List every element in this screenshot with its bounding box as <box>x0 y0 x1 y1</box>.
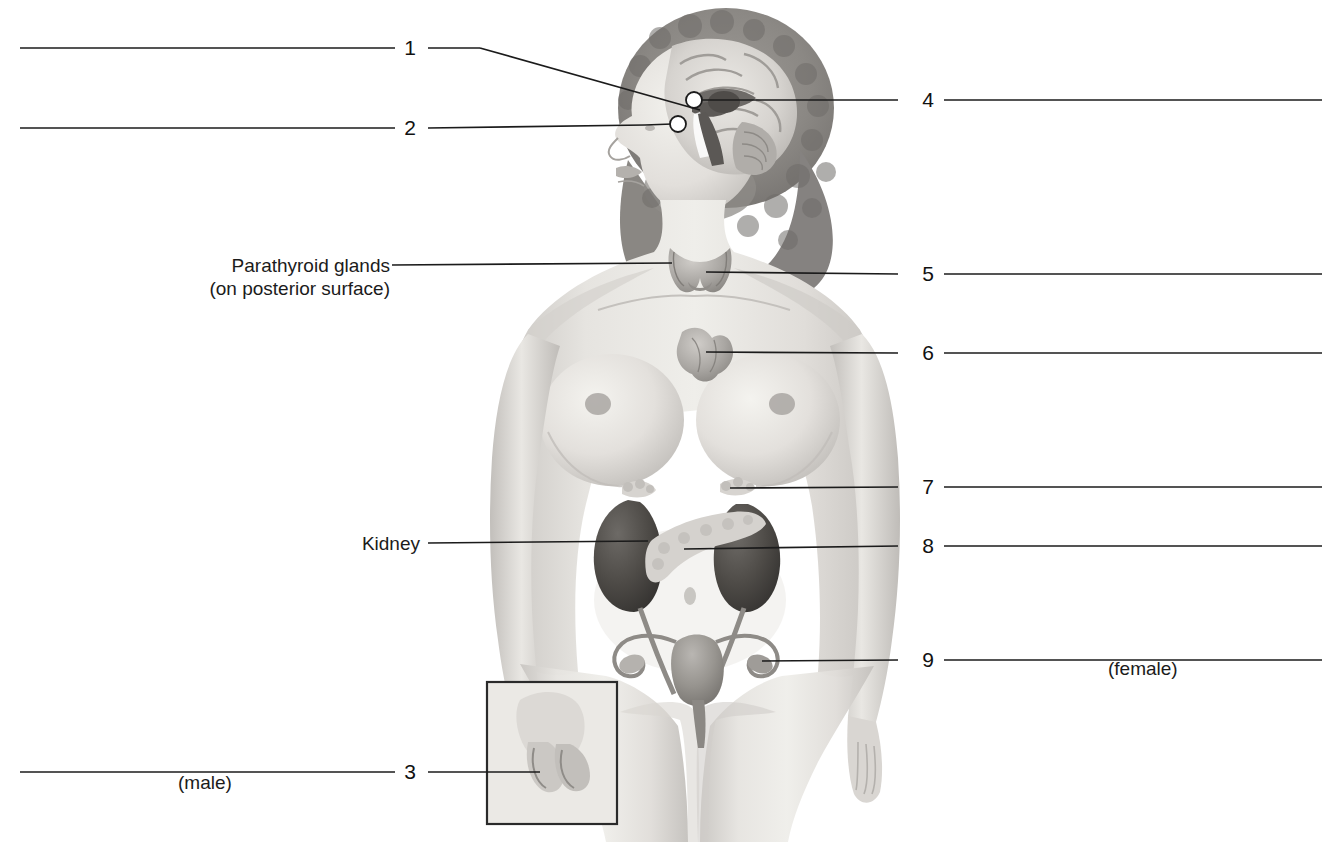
leader-6 <box>706 352 898 353</box>
annotation-male: (male) <box>178 772 232 794</box>
label-kidney: Kidney <box>240 532 420 555</box>
annotation-female: (female) <box>1108 658 1178 680</box>
leader-9 <box>762 660 898 661</box>
label-number-4[interactable]: 4 <box>916 88 940 112</box>
label-number-3[interactable]: 3 <box>398 760 422 784</box>
label-number-2[interactable]: 2 <box>398 116 422 140</box>
label-number-7[interactable]: 7 <box>916 475 940 499</box>
pineal-marker <box>686 92 702 108</box>
tick-line-2 <box>428 125 645 128</box>
label-number-6[interactable]: 6 <box>916 341 940 365</box>
label-parathyroid-line1: Parathyroid glands <box>150 254 390 277</box>
label-number-9[interactable]: 9 <box>916 648 940 672</box>
label-parathyroid-line2: (on posterior surface) <box>150 277 390 300</box>
testes-inset <box>487 682 617 824</box>
pituitary-marker <box>670 116 686 132</box>
label-number-1[interactable]: 1 <box>398 36 422 60</box>
label-number-8[interactable]: 8 <box>916 534 940 558</box>
leader-7 <box>730 487 898 488</box>
leader-2 <box>645 124 672 125</box>
figure-page: 1 2 3 4 5 6 7 8 9 Parathyroid glands (on… <box>0 0 1339 842</box>
label-number-5[interactable]: 5 <box>916 262 940 286</box>
anatomy-figure <box>0 0 1339 842</box>
body-illustration <box>487 8 900 842</box>
